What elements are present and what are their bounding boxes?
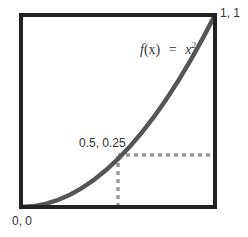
midpoint-label: 0.5, 0.25	[79, 136, 126, 150]
function-plot	[0, 0, 248, 237]
function-exponent: 2	[191, 40, 196, 50]
function-argument: (x)	[144, 42, 160, 57]
function-formula: f(x) = x2	[140, 40, 196, 58]
corner-label: 1, 1	[220, 6, 240, 20]
equals-sign: =	[169, 42, 177, 57]
origin-label: 0, 0	[12, 214, 32, 228]
